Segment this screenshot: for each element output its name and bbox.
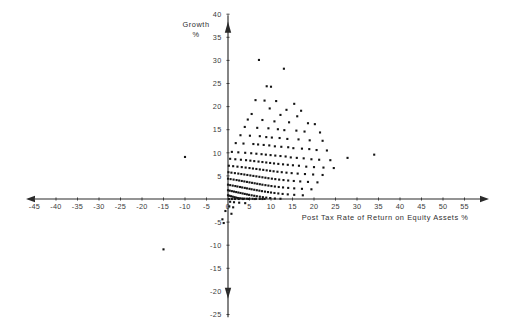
data-point <box>279 114 281 116</box>
data-point <box>233 201 235 203</box>
data-point <box>243 173 245 175</box>
data-point <box>258 190 260 192</box>
data-point <box>259 168 261 170</box>
data-point <box>239 192 241 194</box>
data-point <box>253 160 255 162</box>
x-tick-label: -20 <box>136 202 147 211</box>
data-point <box>257 143 259 145</box>
data-point <box>302 194 304 196</box>
data-point <box>269 162 271 164</box>
plot-area: -45-40-35-30-25-20-15-10-505101520253035… <box>0 0 509 326</box>
x-tick-label: 50 <box>439 202 448 211</box>
data-point <box>248 167 250 169</box>
data-point <box>254 182 256 184</box>
data-point <box>224 210 226 212</box>
data-point <box>263 144 265 146</box>
data-point <box>293 194 295 196</box>
data-point <box>287 164 289 166</box>
x-tick-label: -25 <box>115 202 126 211</box>
axis-titles-group: Post Tax Rate of Return on Equity Assets… <box>182 20 468 222</box>
x-tick-label: -5 <box>203 202 210 211</box>
data-point <box>246 174 248 176</box>
y-tick-label: 40 <box>213 10 222 19</box>
data-point <box>228 165 230 167</box>
data-point <box>253 189 255 191</box>
data-point <box>237 151 239 153</box>
data-point <box>269 197 271 199</box>
data-point <box>184 156 186 158</box>
data-points-group <box>162 59 375 251</box>
data-point <box>229 201 231 203</box>
data-point <box>281 171 283 173</box>
data-point <box>310 158 312 160</box>
data-point <box>271 178 273 180</box>
x-tick-label: -35 <box>72 202 83 211</box>
data-point <box>312 173 314 175</box>
y-axis-down-arrow-icon <box>225 288 231 299</box>
data-point <box>276 171 278 173</box>
data-point <box>322 167 324 169</box>
data-point <box>228 205 230 207</box>
data-point <box>264 184 266 186</box>
data-point <box>303 157 305 159</box>
data-point <box>285 172 287 174</box>
x-tick-label: -30 <box>93 202 104 211</box>
data-point <box>308 148 310 150</box>
data-point <box>262 169 264 171</box>
data-point <box>236 179 238 181</box>
data-point <box>240 173 242 175</box>
data-point <box>261 161 263 163</box>
scatter-chart-figure: -45-40-35-30-25-20-15-10-505101520253035… <box>0 0 509 326</box>
data-point <box>244 187 246 189</box>
data-point <box>274 145 276 147</box>
data-point <box>373 154 375 156</box>
y-tick-label: 10 <box>213 149 222 158</box>
data-point <box>282 186 284 188</box>
data-point <box>282 193 284 195</box>
data-point <box>287 179 289 181</box>
data-point <box>279 198 281 200</box>
data-point <box>232 165 234 167</box>
data-point <box>301 148 303 150</box>
data-point <box>242 198 244 200</box>
data-point <box>251 182 253 184</box>
data-point <box>248 198 250 200</box>
y-tick-label: 35 <box>213 33 222 42</box>
data-point <box>233 191 235 193</box>
data-point <box>242 192 244 194</box>
data-point <box>267 191 269 193</box>
data-point <box>253 195 255 197</box>
x-tick-label: 45 <box>417 202 426 211</box>
data-point <box>251 188 253 190</box>
data-point <box>279 155 281 157</box>
data-point <box>273 192 275 194</box>
data-point <box>274 155 276 157</box>
data-point <box>229 184 231 186</box>
x-tick-label: 20 <box>310 202 319 211</box>
y-tick-label: -10 <box>210 241 221 250</box>
data-point <box>326 149 328 151</box>
data-point <box>258 59 260 61</box>
y-axis-title-line2: % <box>192 30 199 39</box>
data-point <box>227 178 229 180</box>
data-point <box>245 159 247 161</box>
data-point <box>316 181 318 183</box>
data-point <box>255 168 257 170</box>
data-point <box>266 169 268 171</box>
y-tick-label: -5 <box>214 218 221 227</box>
data-point <box>303 131 305 133</box>
data-point <box>264 198 266 200</box>
data-point <box>248 194 250 196</box>
data-point <box>229 158 231 160</box>
data-point <box>256 183 258 185</box>
data-point <box>244 126 246 128</box>
data-point <box>243 180 245 182</box>
x-axis-right-arrow-icon <box>480 196 489 202</box>
data-point <box>346 157 348 159</box>
data-point <box>310 188 312 190</box>
data-point <box>238 179 240 181</box>
x-tick-label: -10 <box>179 202 190 211</box>
data-point <box>275 100 277 102</box>
data-point <box>252 167 254 169</box>
data-point <box>292 164 294 166</box>
